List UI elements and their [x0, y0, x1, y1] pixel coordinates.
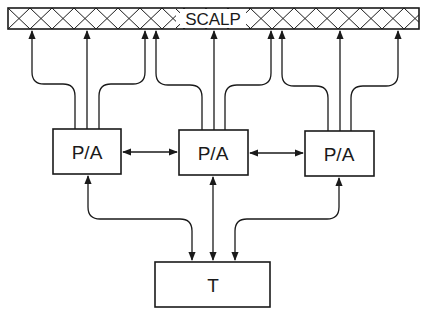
- pa3-scalp-wires: [282, 31, 398, 131]
- pa-box-1: P/A: [53, 129, 121, 174]
- scalp-label: SCALP: [185, 10, 241, 29]
- pa-box-2-label: P/A: [198, 143, 229, 164]
- scalp-bar: SCALP: [8, 8, 419, 29]
- terminal-box: T: [155, 262, 270, 307]
- terminal-label: T: [207, 275, 219, 296]
- pa-box-3-label: P/A: [324, 144, 355, 165]
- pa3-t-link: [235, 178, 339, 260]
- pa1-t-link: [88, 176, 192, 260]
- pa1-scalp-wires: [32, 31, 145, 129]
- pa2-scalp-wires: [156, 31, 271, 130]
- scalp-diagram: SCALP P/A P/A P/A T: [0, 0, 426, 314]
- pa-box-3: P/A: [305, 131, 374, 176]
- pa-box-1-label: P/A: [72, 142, 103, 163]
- pa-box-2: P/A: [179, 130, 248, 175]
